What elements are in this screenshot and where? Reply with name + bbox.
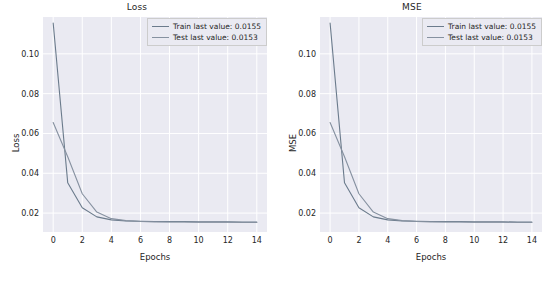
y-axis-label-mse: MSE: [288, 133, 298, 151]
legend-item-test[interactable]: Test last value: 0.0153: [152, 33, 261, 42]
series-line-test: [330, 123, 532, 223]
x-tick-label: 4: [385, 236, 390, 245]
y-tick-label: 0.04: [21, 169, 39, 178]
legend-label: Test last value: 0.0153: [448, 33, 533, 42]
x-axis-label-loss: Epochs: [43, 252, 267, 262]
legend-label: Train last value: 0.0155: [448, 22, 536, 31]
chart-svg: [43, 17, 267, 232]
y-tick-label: 0.02: [298, 209, 316, 218]
legend-label: Test last value: 0.0153: [173, 33, 258, 42]
x-tick-label: 0: [51, 236, 56, 245]
y-tick-label: 0.04: [298, 169, 316, 178]
legend-line-swatch-icon: [152, 37, 169, 38]
x-tick-label: 2: [356, 236, 361, 245]
x-tick-label: 14: [527, 236, 537, 245]
legend-item-train[interactable]: Train last value: 0.0155: [152, 22, 261, 31]
legend-label: Train last value: 0.0155: [173, 22, 261, 31]
gridlines: [320, 17, 542, 232]
chart-svg: [320, 17, 542, 232]
x-tick-label: 6: [414, 236, 419, 245]
x-tick-label: 14: [252, 236, 262, 245]
series-line-test: [53, 123, 257, 223]
x-tick-label: 12: [498, 236, 508, 245]
panel-title-loss: Loss: [0, 2, 274, 12]
y-tick-label: 0.02: [21, 209, 39, 218]
series-line-train: [330, 23, 532, 222]
x-axis-label-mse: Epochs: [320, 252, 542, 262]
x-tick-label: 10: [194, 236, 204, 245]
x-tick-label: 8: [167, 236, 172, 245]
panel-title-mse: MSE: [275, 2, 549, 12]
legend-item-test[interactable]: Test last value: 0.0153: [427, 33, 536, 42]
x-tick-label: 6: [138, 236, 143, 245]
x-tick-label: 0: [328, 236, 333, 245]
y-tick-label: 0.08: [298, 89, 316, 98]
plot-area-loss: 0.020.040.060.080.1002468101214Train las…: [43, 17, 267, 232]
series-line-train: [53, 23, 257, 222]
x-tick-label: 12: [223, 236, 233, 245]
y-tick-label: 0.06: [298, 129, 316, 138]
legend[interactable]: Train last value: 0.0155Test last value:…: [422, 18, 542, 46]
legend-line-swatch-icon: [152, 26, 169, 27]
panel-mse: MSE MSE 0.020.040.060.080.1002468101214T…: [275, 0, 549, 285]
legend-line-swatch-icon: [427, 37, 444, 38]
legend-line-swatch-icon: [427, 26, 444, 27]
y-tick-label: 0.06: [21, 129, 39, 138]
x-tick-label: 2: [80, 236, 85, 245]
gridlines: [43, 17, 267, 232]
y-axis-label-loss: Loss: [11, 133, 21, 152]
y-tick-label: 0.10: [21, 49, 39, 58]
y-tick-label: 0.08: [21, 89, 39, 98]
y-tick-label: 0.10: [298, 49, 316, 58]
legend-item-train[interactable]: Train last value: 0.0155: [427, 22, 536, 31]
figure-canvas: Loss Loss 0.020.040.060.080.100246810121…: [0, 0, 549, 285]
x-tick-label: 4: [109, 236, 114, 245]
x-tick-label: 10: [469, 236, 479, 245]
legend[interactable]: Train last value: 0.0155Test last value:…: [147, 18, 267, 46]
panel-loss: Loss Loss 0.020.040.060.080.100246810121…: [0, 0, 274, 285]
plot-area-mse: 0.020.040.060.080.1002468101214Train las…: [320, 17, 542, 232]
x-tick-label: 8: [443, 236, 448, 245]
